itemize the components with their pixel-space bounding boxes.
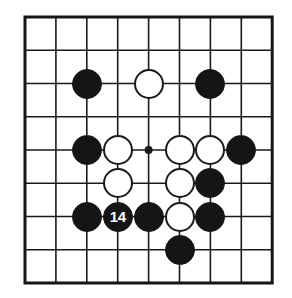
star-point xyxy=(145,146,153,154)
black-stone[interactable] xyxy=(195,69,225,99)
black-stone[interactable] xyxy=(165,235,195,265)
white-stone[interactable] xyxy=(134,69,164,99)
black-stone[interactable] xyxy=(72,69,102,99)
white-stone[interactable] xyxy=(165,135,195,165)
go-board-diagram: 14 xyxy=(0,0,292,298)
black-stone[interactable] xyxy=(72,202,102,232)
white-stone[interactable] xyxy=(103,168,133,198)
black-stone[interactable] xyxy=(72,135,102,165)
white-stone[interactable] xyxy=(165,202,195,232)
white-stone[interactable] xyxy=(103,135,133,165)
black-stone[interactable] xyxy=(134,202,164,232)
black-stone[interactable]: 14 xyxy=(103,202,133,232)
black-stone[interactable] xyxy=(195,202,225,232)
white-stone[interactable] xyxy=(165,168,195,198)
stone-move-number: 14 xyxy=(110,209,126,224)
